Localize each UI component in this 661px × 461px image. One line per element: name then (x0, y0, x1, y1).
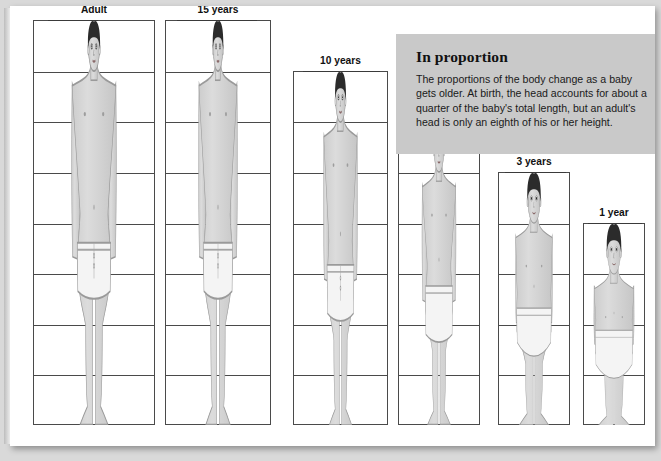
page-content: Adult 15 years (10, 6, 655, 446)
page-sheet: Adult 15 years (10, 6, 655, 446)
figure-panel: 3 years (498, 172, 570, 425)
figure-illustration (165, 20, 271, 425)
figure-art-wrap (498, 172, 570, 425)
figure-art-wrap (583, 223, 645, 425)
top-measure-rule (588, 223, 642, 224)
info-box-title: In proportion (416, 48, 653, 66)
figure-illustration (33, 20, 155, 425)
figure-illustration (293, 71, 388, 425)
figure-panel: Adult (33, 20, 155, 425)
figure-art-wrap (398, 121, 480, 425)
figure-art-wrap (165, 20, 271, 425)
top-measure-rule (177, 20, 257, 21)
top-measure-rule (303, 71, 380, 72)
figure-panel: 15 years (165, 20, 271, 425)
figure-label: 3 years (498, 156, 570, 167)
figure-panel: 5 years (398, 121, 480, 425)
info-box: In proportion The proportions of the bod… (396, 34, 655, 154)
figure-panel: 10 years (293, 71, 388, 425)
top-measure-rule (48, 20, 98, 21)
figure-illustration (498, 172, 570, 425)
figure-label: 10 years (293, 55, 388, 66)
figure-art-wrap (293, 71, 388, 425)
figure-illustration (583, 223, 645, 425)
figure-art-wrap (33, 20, 155, 425)
figure-illustration (398, 121, 480, 425)
figure-label: 1 year (583, 207, 645, 218)
figure-label: Adult (33, 6, 155, 15)
figure-label: 15 years (165, 6, 271, 15)
top-measure-rule (505, 172, 566, 173)
info-box-text: The proportions of the body change as a … (416, 72, 653, 130)
figure-panel: 1 year (583, 223, 645, 425)
